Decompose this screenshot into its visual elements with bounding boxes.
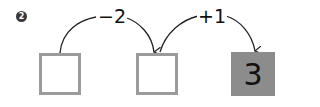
box-value	[139, 56, 175, 92]
answer-box-2[interactable]	[136, 53, 178, 95]
box-value: 3	[234, 55, 272, 93]
answer-box-1[interactable]	[39, 53, 81, 95]
arrow-minus-two	[60, 17, 96, 53]
box-value	[42, 56, 78, 92]
given-box-3: 3	[231, 52, 275, 96]
operation-label-minus-two: −2	[97, 6, 127, 26]
operation-label-plus-one: +1	[197, 6, 227, 26]
arrow-plus-one	[160, 16, 198, 52]
